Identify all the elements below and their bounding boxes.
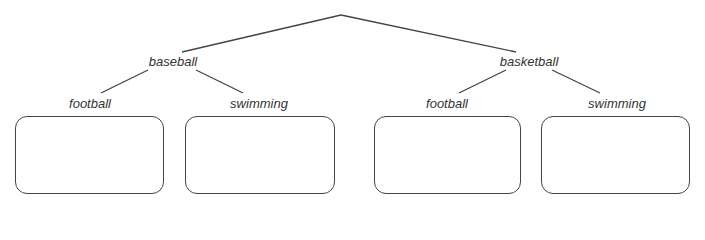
- node-baseball-swimming: swimming: [230, 96, 288, 111]
- node-basketball: basketball: [500, 54, 559, 69]
- answer-box-baseball-swimming[interactable]: [185, 116, 335, 194]
- node-basketball-swimming: swimming: [588, 96, 646, 111]
- answer-box-basketball-football[interactable]: [374, 116, 521, 194]
- answer-box-basketball-swimming[interactable]: [541, 116, 690, 194]
- node-basketball-football: football: [426, 96, 468, 111]
- node-baseball: baseball: [149, 54, 197, 69]
- answer-box-baseball-football[interactable]: [15, 116, 164, 194]
- node-baseball-football: football: [69, 96, 111, 111]
